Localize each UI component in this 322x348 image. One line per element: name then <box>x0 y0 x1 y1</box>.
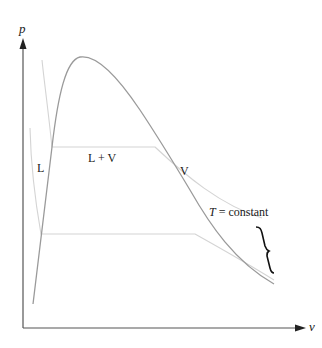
x-axis-label: v <box>309 320 315 333</box>
isotherm-label: T = constant <box>209 206 268 218</box>
axes <box>20 38 307 332</box>
curly-brace-icon <box>256 227 274 273</box>
x-axis-arrow-icon <box>295 325 306 332</box>
y-axis-arrow-icon <box>20 38 27 49</box>
pv-diagram <box>0 0 322 348</box>
region-label-liquid: L <box>37 162 44 174</box>
isotherm-lower <box>30 128 274 280</box>
region-label-vapor: V <box>180 165 189 177</box>
region-label-two-phase: L + V <box>88 152 116 164</box>
saturation-dome <box>33 57 274 304</box>
isotherm-upper <box>42 60 262 218</box>
isotherm-variable: T <box>209 205 216 219</box>
y-axis-label: p <box>19 22 26 35</box>
isotherm-constant-text: = constant <box>216 205 269 219</box>
